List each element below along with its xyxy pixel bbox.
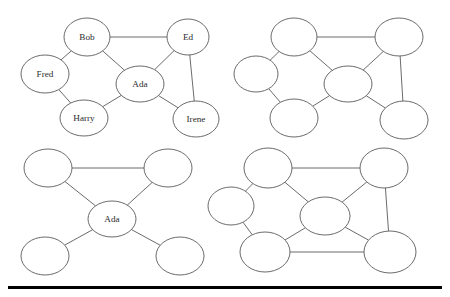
graph-edge — [245, 184, 252, 192]
graph-edge — [342, 182, 367, 202]
graph-edge — [103, 51, 125, 70]
node-label: Bob — [79, 32, 95, 42]
node-ellipse — [380, 101, 428, 139]
graph-node-ada[interactable]: Ada — [116, 66, 164, 102]
graph-edge — [65, 230, 93, 245]
graph-edge — [103, 95, 122, 106]
node-ellipse — [364, 231, 416, 273]
graph-diagram-canvas: BobEdFredAdaHarryIreneAda — [0, 0, 450, 297]
node-ellipse — [360, 148, 408, 188]
node-ellipse — [156, 237, 204, 275]
graph-edge — [363, 51, 383, 70]
node-label: Irene — [187, 114, 206, 124]
graph-node[interactable] — [144, 149, 192, 187]
node-ellipse — [271, 18, 317, 56]
graph-edge — [158, 96, 178, 108]
graph-node[interactable] — [375, 18, 423, 56]
graph-nodes-top-right — [234, 18, 428, 139]
graph-edge — [65, 181, 96, 205]
graph-edge — [59, 90, 71, 103]
graph-edge — [385, 188, 388, 231]
node-ellipse — [208, 187, 254, 225]
node-ellipse — [21, 237, 69, 275]
graph-node-harry[interactable]: Harry — [60, 100, 108, 136]
figure-root: BobEdFredAdaHarryIreneAda — [0, 0, 450, 297]
node-label: Fred — [37, 69, 54, 79]
graph-edge — [366, 96, 385, 108]
graph-node-irene[interactable]: Irene — [173, 101, 219, 137]
node-label: Ada — [104, 214, 119, 224]
graph-node[interactable] — [300, 197, 350, 235]
graph-node[interactable] — [24, 149, 72, 187]
graph-node[interactable] — [208, 187, 254, 225]
graph-edge — [400, 56, 403, 101]
node-ellipse — [144, 149, 192, 187]
node-ellipse — [270, 99, 318, 137]
graph-nodes-bottom-right — [208, 148, 416, 273]
graph-node[interactable] — [234, 56, 278, 92]
graph-edge — [269, 89, 281, 103]
graph-nodes-top-left: BobEdFredAdaHarryIrene — [21, 18, 219, 137]
graph-edge — [313, 96, 330, 107]
graph-node[interactable] — [270, 99, 318, 137]
graph-node[interactable] — [364, 231, 416, 273]
graph-edge — [270, 51, 279, 60]
graph-node[interactable] — [240, 232, 290, 272]
node-ellipse — [234, 56, 278, 92]
node-ellipse — [375, 18, 423, 56]
graph-node[interactable] — [21, 237, 69, 275]
graph-edge — [243, 222, 252, 235]
node-ellipse — [240, 232, 290, 272]
graph-edge — [155, 51, 175, 70]
graph-edge — [285, 182, 308, 202]
graph-edge — [61, 51, 71, 60]
node-label: Harry — [73, 113, 95, 123]
graph-node-bob[interactable]: Bob — [64, 18, 110, 56]
graph-node[interactable] — [156, 237, 204, 275]
graph-edge — [310, 51, 333, 71]
graph-node-fred[interactable]: Fred — [21, 55, 69, 93]
graph-edge — [345, 227, 368, 240]
graph-node[interactable] — [271, 18, 317, 56]
node-ellipse — [300, 197, 350, 235]
node-ellipse — [244, 148, 292, 188]
graph-node[interactable] — [324, 66, 372, 102]
node-label: Ada — [132, 79, 147, 89]
graph-node[interactable] — [360, 148, 408, 188]
graph-edge — [190, 55, 195, 101]
graph-edge — [285, 228, 305, 240]
graph-node-ada[interactable]: Ada — [88, 201, 136, 237]
graph-node[interactable] — [380, 101, 428, 139]
nodes-layer: BobEdFredAdaHarryIreneAda — [21, 18, 428, 275]
graph-node-ed[interactable]: Ed — [167, 19, 209, 55]
graph-edge — [127, 182, 152, 205]
graph-node[interactable] — [244, 148, 292, 188]
node-ellipse — [24, 149, 72, 187]
graph-edge — [131, 230, 160, 246]
node-ellipse — [324, 66, 372, 102]
node-label: Ed — [183, 32, 194, 42]
horizontal-rule — [8, 286, 442, 289]
